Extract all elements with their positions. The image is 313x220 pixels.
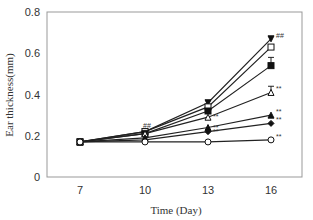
significance-label: ** [213,113,219,120]
plot-frame [47,12,302,177]
series-filled-square [77,57,274,145]
series-open-triangle: **** [77,85,282,145]
significance-label: ## [276,32,284,39]
x-tick-label: 10 [139,184,151,196]
significance-label: ** [276,116,282,123]
y-axis-label: Ear thickness(mm) [3,53,16,137]
y-tick-label: 0 [34,171,40,183]
significance-label: ** [276,85,282,92]
x-axis-ticks: 7101316 [77,184,277,196]
y-tick-label: 0.6 [25,47,40,59]
data-series: ####************** [77,32,284,145]
significance-label: ## [143,122,151,129]
x-tick-label: 13 [202,184,214,196]
x-axis-label: Time (Day) [150,204,202,217]
y-tick-label: 0.2 [25,130,40,142]
significance-label: ** [276,108,282,115]
significance-label: ** [213,128,219,135]
line-chart: 00.20.40.60.8 7101316 ####**************… [0,0,313,220]
significance-label: ** [276,133,282,140]
y-tick-label: 0.4 [25,89,40,101]
x-tick-label: 16 [265,184,277,196]
series-open-square [77,44,274,145]
x-tick-label: 7 [77,184,83,196]
series-filled-down-triangle: #### [77,32,284,145]
y-axis-ticks: 00.20.40.60.8 [25,6,40,183]
y-tick-label: 0.8 [25,6,40,18]
